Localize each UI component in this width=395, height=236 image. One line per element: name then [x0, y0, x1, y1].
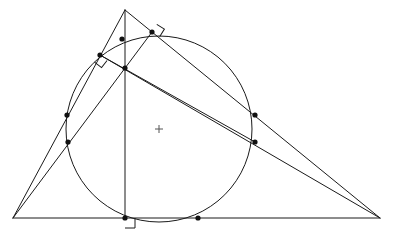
figure-background — [0, 0, 395, 236]
geometry-canvas — [0, 0, 395, 236]
point-tangency-upper-right — [149, 29, 154, 34]
point-on-altitude-upper — [119, 36, 124, 41]
point-left-lower — [65, 139, 70, 144]
point-right-lower — [252, 139, 257, 144]
point-left-upper — [64, 112, 69, 117]
point-orthocenter — [122, 65, 127, 70]
point-right-upper — [252, 112, 257, 117]
point-foot-of-altitude — [122, 215, 127, 220]
geometry-figure-root — [0, 0, 395, 236]
point-on-base-right — [195, 215, 200, 220]
point-tangency-upper-left — [97, 52, 102, 57]
